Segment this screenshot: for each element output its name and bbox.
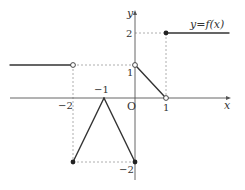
tick-x-1: 1 (163, 102, 169, 113)
tick-x-neg1: −1 (94, 84, 109, 95)
closed-point-neg2-neg2 (71, 160, 76, 165)
open-point-neg2-1 (71, 63, 76, 68)
piece-rising (73, 98, 104, 162)
tick-x-neg2: −2 (58, 100, 73, 111)
function-graph: y x O −2 −1 1 2 1 −2 y=f(x) (0, 0, 245, 190)
origin-label: O (127, 100, 136, 113)
axes (10, 12, 229, 180)
guide-lines (73, 33, 166, 162)
x-axis-label: x (224, 99, 231, 112)
y-axis-label: y (126, 7, 134, 20)
tick-y-neg2: −2 (119, 164, 134, 175)
open-point-1-0 (164, 96, 169, 101)
function-label: y=f(x) (189, 18, 224, 31)
function-curve (10, 33, 229, 162)
tick-y-1: 1 (127, 67, 133, 78)
closed-point-1-2 (164, 31, 169, 36)
tick-y-2: 2 (126, 28, 132, 39)
y-axis-arrow-icon (133, 10, 137, 15)
piece-linear-0-1 (137, 67, 164, 96)
points (71, 31, 169, 165)
